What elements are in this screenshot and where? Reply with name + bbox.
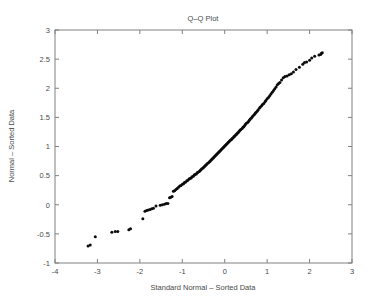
y-tick-label: 0.5 [40, 171, 50, 180]
data-point [166, 202, 169, 205]
y-tick-label: 3 [46, 26, 50, 35]
data-point [89, 243, 92, 246]
data-point [154, 204, 157, 207]
data-point [313, 55, 316, 58]
x-tick-label: -4 [52, 267, 59, 276]
x-tick-label: 3 [350, 267, 354, 276]
y-tick-label: 2.5 [40, 55, 50, 64]
x-tick-label: 0 [223, 267, 227, 276]
x-tick-label: -2 [137, 267, 144, 276]
data-point [305, 61, 308, 64]
x-tick-label: -3 [94, 267, 101, 276]
data-point [129, 227, 132, 230]
data-point [171, 195, 174, 198]
x-axis-label: Standard Normal – Sorted Data [150, 283, 256, 292]
figure-background [0, 0, 374, 302]
data-point [298, 66, 301, 69]
data-point [321, 51, 324, 54]
data-point [116, 230, 119, 233]
y-tick-label: -0.5 [37, 230, 50, 239]
data-point [310, 56, 313, 59]
chart-title: Q–Q Plot [188, 14, 220, 23]
chart-canvas: Q–Q Plot -4-3-2-10123 -1-0.500.511.522.5… [0, 0, 374, 302]
data-point [141, 217, 144, 220]
data-point [152, 207, 155, 210]
data-point [94, 235, 97, 238]
y-tick-label: 2 [46, 84, 50, 93]
data-point [294, 68, 297, 71]
data-point [308, 59, 311, 62]
y-axis-label: Normal – Sorted Data [7, 109, 16, 182]
y-tick-label: 0 [46, 201, 50, 210]
x-tick-label: 1 [265, 267, 269, 276]
y-tick-label: 1 [46, 142, 50, 151]
qq-plot-figure: Q–Q Plot -4-3-2-10123 -1-0.500.511.522.5… [0, 0, 374, 302]
x-tick-label: -1 [179, 267, 186, 276]
y-tick-label: 1.5 [40, 113, 50, 122]
data-point [110, 231, 113, 234]
x-tick-label: 2 [307, 267, 311, 276]
y-tick-label: -1 [43, 259, 50, 268]
data-point [292, 70, 295, 73]
